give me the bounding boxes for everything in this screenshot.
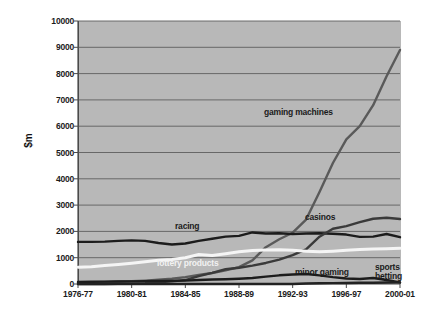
series-label-gaming-machines: gaming machines [264, 108, 333, 117]
series-line-minor-gaming [78, 274, 400, 282]
chart-screenshot: $m 1000090008000700060005000400030002000… [0, 0, 424, 328]
series-label-lottery-products: lottery products [157, 259, 219, 268]
x-axis-tick-label: 1980-81 [117, 289, 147, 299]
series-lines [78, 50, 400, 284]
series-label-racing: racing [175, 222, 199, 231]
x-axis-tick-label: 1992-93 [278, 289, 308, 299]
axis-ticks [74, 21, 400, 288]
series-line-gaming-machines [78, 50, 400, 282]
x-axis-tick-label: 1976-77 [63, 289, 93, 299]
gridlines [78, 21, 400, 258]
chart-canvas [0, 0, 424, 328]
series-line-racing [78, 232, 400, 244]
x-axis-tick-label: 1984-85 [170, 289, 200, 299]
series-label-minor-gaming: minor gaming [295, 268, 349, 277]
x-axis-tick-label: 1996-97 [331, 289, 361, 299]
x-axis-tick-label: 2000-01 [385, 289, 415, 299]
x-axis-tick-label: 1988-89 [224, 289, 254, 299]
series-label-sports-betting: sportsbetting [375, 263, 402, 281]
series-label-casinos: casinos [305, 213, 335, 222]
